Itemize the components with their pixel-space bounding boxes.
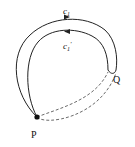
dashed-path-upper (37, 72, 108, 117)
label-P: P (31, 129, 37, 140)
label-c1: c1 (63, 6, 70, 17)
dashed-path-lower (37, 73, 116, 120)
label-Q: Q (113, 74, 121, 85)
point-P (34, 114, 39, 119)
curve-c1-prime (28, 30, 108, 117)
label-c1-prime: c1′ (63, 40, 72, 52)
path-diagram: c1 c1′ Q P (0, 0, 135, 147)
